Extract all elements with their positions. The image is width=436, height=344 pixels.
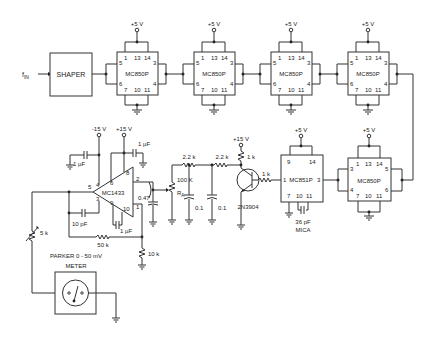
chip-top-3: 5 6 3 4 1 13 14 7 10 11 MC850P +5 V xyxy=(260,21,320,114)
svg-text:10 k: 10 k xyxy=(148,251,160,257)
opamp-mc1433: MC1433 6 9 8 2 10 1 4 5 3 -15 V 1 µF +15… xyxy=(32,126,160,269)
svg-text:10: 10 xyxy=(134,87,141,93)
svg-text:10: 10 xyxy=(296,193,303,199)
chip-top-4: 5 6 3 4 1 13 14 7 10 11 MC850P +5 V xyxy=(337,21,397,114)
svg-text:11: 11 xyxy=(376,193,383,199)
svg-text:2.2 k: 2.2 k xyxy=(215,154,229,160)
svg-text:0.1: 0.1 xyxy=(195,205,204,211)
svg-text:+15 V: +15 V xyxy=(116,126,132,132)
svg-text:13: 13 xyxy=(288,55,295,61)
svg-text:MC850P: MC850P xyxy=(125,71,148,77)
chip-bottom-right: 3 4 5 6 1 13 14 7 10 11 MC850P +5 V xyxy=(337,127,403,220)
svg-text:14: 14 xyxy=(376,161,383,167)
svg-text:MC850P: MC850P xyxy=(356,71,379,77)
svg-text:11: 11 xyxy=(298,87,305,93)
svg-text:13: 13 xyxy=(134,55,141,61)
svg-text:1 k: 1 k xyxy=(262,171,271,177)
svg-text:10: 10 xyxy=(365,87,372,93)
svg-text:11: 11 xyxy=(375,87,382,93)
svg-text:13: 13 xyxy=(365,55,372,61)
svg-text:1 k: 1 k xyxy=(247,154,256,160)
svg-text:10: 10 xyxy=(288,87,295,93)
svg-text:11: 11 xyxy=(144,87,151,93)
oneshot-mc851p: 9 14 1 3 MC851P 7 10 11 +5 V 36 pF MICA xyxy=(281,127,338,233)
transistor-2n3904: +15 V 1 k 1 k 2N3904 xyxy=(233,136,281,229)
svg-text:50 k: 50 k xyxy=(97,242,109,248)
svg-text:36 pF: 36 pF xyxy=(295,219,311,225)
svg-text:11: 11 xyxy=(221,87,228,93)
svg-text:+5 V: +5 V xyxy=(285,21,298,27)
chip-top-1: 5 6 3 4 1 13 14 7 10 11 MC850P +5 V xyxy=(106,21,166,114)
svg-text:13: 13 xyxy=(365,161,372,167)
svg-text:14: 14 xyxy=(375,55,382,61)
chip-top-2: 5 6 3 4 1 13 14 7 10 11 MC850P +5 V xyxy=(183,21,243,114)
svg-text:+15 V: +15 V xyxy=(233,136,249,142)
schematic: fIN SHAPER 5 6 3 4 1 13 14 7 10 11 MC850… xyxy=(0,0,436,344)
svg-text:0.1: 0.1 xyxy=(218,205,227,211)
svg-text:2: 2 xyxy=(136,176,140,182)
svg-text:PARKER 0 - 50 mV: PARKER 0 - 50 mV xyxy=(50,253,102,259)
svg-text:SHAPER: SHAPER xyxy=(57,71,86,78)
svg-text:5 k: 5 k xyxy=(40,230,49,236)
svg-text:10: 10 xyxy=(211,87,218,93)
svg-text:+5 V: +5 V xyxy=(362,21,375,27)
svg-text:14: 14 xyxy=(298,55,305,61)
svg-text:10 pF: 10 pF xyxy=(72,221,88,227)
svg-text:-15 V: -15 V xyxy=(92,126,106,132)
svg-text:10: 10 xyxy=(123,206,130,212)
svg-text:13: 13 xyxy=(211,55,218,61)
meter: 5 k PARKER 0 - 50 mV METER xyxy=(26,192,120,322)
svg-text:MICA: MICA xyxy=(296,227,311,233)
svg-text:MC850P: MC850P xyxy=(202,71,225,77)
svg-text:2.2 k: 2.2 k xyxy=(182,154,196,160)
shaper-block: SHAPER xyxy=(50,53,92,96)
svg-text:+5 V: +5 V xyxy=(131,21,144,27)
svg-text:1 µF: 1 µF xyxy=(138,141,150,147)
svg-text:1 µF: 1 µF xyxy=(120,228,132,234)
svg-text:11: 11 xyxy=(306,193,313,199)
svg-text:MC851P: MC851P xyxy=(289,177,312,183)
svg-text:MC850P: MC850P xyxy=(279,71,302,77)
svg-text:1 µF: 1 µF xyxy=(73,161,85,167)
svg-text:+5 V: +5 V xyxy=(363,127,376,133)
svg-text:MC1433: MC1433 xyxy=(102,190,125,196)
input-label: fIN xyxy=(22,71,29,80)
svg-text:2N3904: 2N3904 xyxy=(237,204,259,210)
svg-text:1: 1 xyxy=(136,204,140,210)
svg-text:+5 V: +5 V xyxy=(295,127,308,133)
svg-text:MC850P: MC850P xyxy=(357,178,380,184)
svg-text:100 K: 100 K xyxy=(177,177,193,183)
svg-text:RA: RA xyxy=(177,190,184,198)
svg-text:14: 14 xyxy=(144,55,151,61)
svg-text:METER: METER xyxy=(66,263,88,269)
svg-text:+5 V: +5 V xyxy=(208,21,221,27)
svg-text:14: 14 xyxy=(309,159,316,165)
svg-text:10: 10 xyxy=(365,193,372,199)
rc-filter: 2.2 k 2.2 k 0.1 0.1 xyxy=(172,154,242,224)
svg-text:0.47: 0.47 xyxy=(138,195,150,201)
svg-text:5: 5 xyxy=(88,184,92,190)
svg-text:14: 14 xyxy=(221,55,228,61)
